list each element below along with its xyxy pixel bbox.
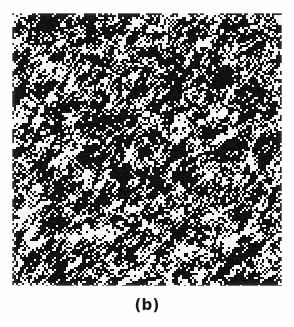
figure-panel: (b) [0,0,294,327]
panel-caption: (b) [0,296,294,314]
binary-texture-image [12,13,282,286]
texture-plate [12,13,282,286]
